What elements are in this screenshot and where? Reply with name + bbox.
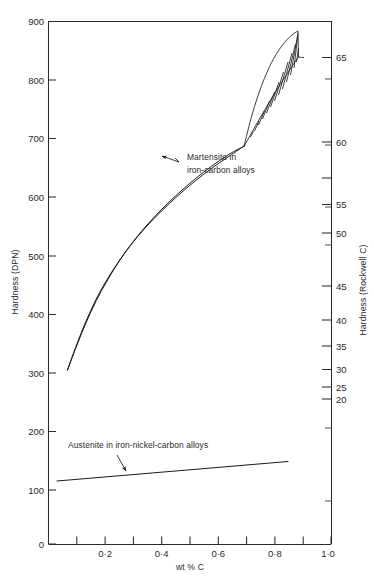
scatter-band-tail bbox=[299, 57, 305, 58]
y-tick-label: 900 bbox=[28, 16, 44, 27]
y2-tick-label: 30 bbox=[336, 364, 347, 375]
chart-background bbox=[0, 0, 374, 576]
y-tick-label: 300 bbox=[28, 368, 44, 379]
austenite-annotation-line-1: Austenite in iron-nickel-carbon alloys bbox=[68, 440, 208, 450]
y2-tick-label: 20 bbox=[336, 394, 347, 405]
y2-tick-label: 40 bbox=[336, 315, 347, 326]
y2-tick-label: 50 bbox=[336, 228, 347, 239]
martensite-annotation-line-1: Martensite in bbox=[187, 152, 236, 162]
y2-tick-label: 55 bbox=[336, 199, 347, 210]
y2-axis-title: Hardness (Rockwell C) bbox=[358, 244, 368, 335]
y2-tick-label: 65 bbox=[336, 52, 347, 63]
y2-tick-label: 35 bbox=[336, 341, 347, 352]
x-tick-label: 1·0 bbox=[321, 548, 335, 559]
y-tick-label: 500 bbox=[28, 251, 44, 262]
y-axis-title: Hardness (DPN) bbox=[10, 249, 20, 314]
x-tick-label: 0·4 bbox=[155, 548, 169, 559]
x-tick-label: 0·8 bbox=[268, 548, 282, 559]
chart-figure: 900 800 700 600 500 400 300 200 100 0 Ha… bbox=[0, 0, 374, 576]
chart-svg: 900 800 700 600 500 400 300 200 100 0 Ha… bbox=[0, 0, 374, 576]
y-tick-label: 400 bbox=[28, 309, 44, 320]
y-tick-label: 0 bbox=[39, 539, 44, 550]
martensite-annotation-line-2: iron-carbon alloys bbox=[187, 165, 255, 175]
y-tick-label: 600 bbox=[28, 192, 44, 203]
y2-tick-label: 25 bbox=[336, 382, 347, 393]
y-tick-label: 100 bbox=[28, 485, 44, 496]
y-tick-label: 200 bbox=[28, 426, 44, 437]
y-tick-label: 700 bbox=[28, 133, 44, 144]
y2-tick-label: 60 bbox=[336, 137, 347, 148]
x-axis-title: wt % C bbox=[175, 562, 204, 572]
x-tick-label: 0·2 bbox=[98, 548, 112, 559]
x-tick-label: 0·6 bbox=[211, 548, 225, 559]
y2-tick-label: 45 bbox=[336, 281, 347, 292]
y-tick-label: 800 bbox=[28, 75, 44, 86]
